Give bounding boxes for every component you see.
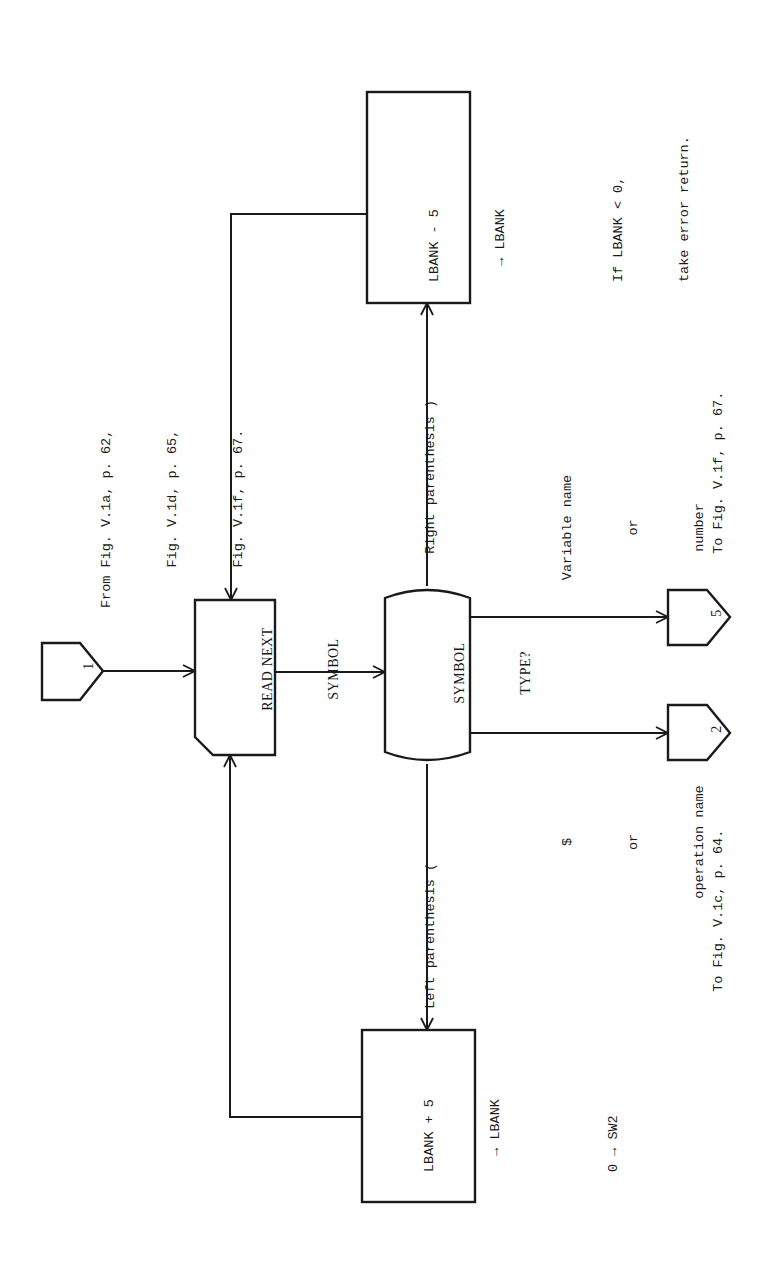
source-note: From Fig. V.1a, p. 62, Fig. V.1d, p. 65,…: [52, 430, 272, 608]
exit-connector-5: 5: [684, 607, 728, 627]
symbol-type-line-2: TYPE?: [515, 608, 537, 738]
exit-connector-2-label: 2: [709, 725, 724, 733]
symbol-type-line-1: SYMBOL: [449, 608, 471, 738]
read-symbol-line-1: READ NEXT: [257, 604, 279, 734]
entry-connector-label: 1: [81, 662, 96, 670]
increment-line-3: 0 → SW2: [603, 1052, 625, 1172]
decrement-line-1: LBANK - 5: [424, 107, 446, 282]
right-paren-label: Right parenthesis ): [423, 400, 438, 554]
destination-to-5-text: To Fig. V.1f, p. 67.: [711, 392, 726, 554]
exit-connector-2: 2: [684, 723, 728, 743]
edge-loop-bottom: [230, 755, 362, 1117]
variable-line-2: or: [623, 460, 645, 595]
left-paren-label: Left parenthesis (: [423, 863, 438, 1009]
destination-to-2: To Fig. V.1c, p. 64.: [686, 830, 730, 1008]
source-note-line-2: Fig. V.1d, p. 65,: [162, 430, 184, 608]
exit-connector-5-label: 5: [709, 609, 724, 617]
increment-box: LBANK + 5 → LBANK 0 → SW2: [375, 1052, 647, 1172]
symbol-type-node: SYMBOL TYPE?: [405, 608, 559, 738]
read-symbol-line-2: SYMBOL: [323, 604, 345, 734]
operation-line-1: $: [557, 777, 579, 907]
increment-line-1: LBANK + 5: [419, 1052, 441, 1172]
decrement-line-4: take error return.: [674, 107, 696, 282]
edge-label-left-paren: Left parenthesis (: [398, 863, 442, 1025]
destination-to-5: To Fig. V.1f, p. 67.: [686, 392, 730, 570]
source-note-line-3: Fig. V.1f, p. 67.: [228, 430, 250, 608]
decrement-line-3: If LBANK < 0,: [608, 107, 630, 282]
destination-to-2-text: To Fig. V.1c, p. 64.: [711, 830, 726, 992]
increment-line-2: → LBANK: [485, 1052, 507, 1172]
source-note-line-1: From Fig. V.1a, p. 62,: [96, 430, 118, 608]
decrement-box: LBANK - 5 → LBANK If LBANK < 0, take err…: [380, 107, 718, 282]
read-symbol-node: READ NEXT SYMBOL: [213, 604, 367, 734]
entry-connector: 1: [56, 660, 100, 680]
operation-line-2: or: [623, 777, 645, 907]
edge-label-right-paren: Right parenthesis ): [398, 400, 442, 570]
variable-line-1: Variable name: [557, 460, 579, 595]
decrement-line-2: → LBANK: [490, 107, 512, 282]
